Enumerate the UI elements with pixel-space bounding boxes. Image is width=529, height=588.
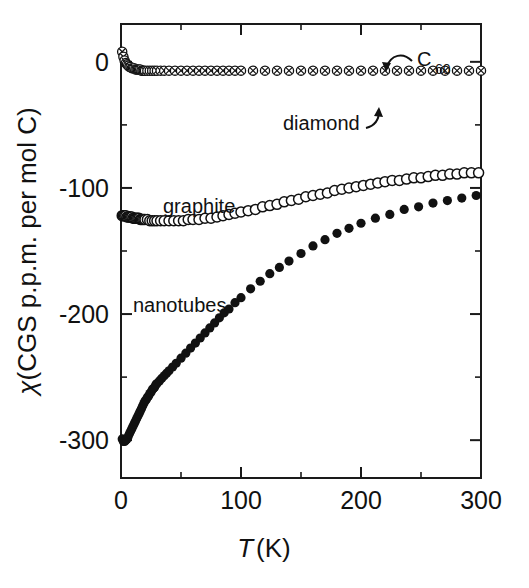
x-tick-label: 300 — [460, 486, 502, 514]
data-point-filled-circle — [344, 224, 353, 233]
data-point-filled-circle — [320, 235, 329, 244]
y-axis-title: χ(CGS p.p.m. per mol C) — [12, 107, 42, 396]
nanotubes-label: nanotubes — [133, 294, 226, 316]
series-nanotubes — [118, 191, 481, 446]
data-point-filled-circle — [443, 196, 452, 205]
data-point-filled-circle — [265, 269, 274, 278]
data-point-filled-circle — [400, 205, 409, 214]
c60-label: C — [417, 48, 431, 70]
data-point-filled-circle — [457, 193, 466, 202]
x-tick-label: 200 — [340, 486, 382, 514]
y-tick-label: -100 — [59, 174, 109, 202]
data-point-filled-circle — [296, 249, 305, 258]
diamond-label: diamond — [283, 112, 360, 134]
x-axis-title: T(K) — [237, 533, 291, 563]
x-tick-label: 100 — [220, 486, 262, 514]
y-axis-tick-labels: 0-100-200-300 — [59, 48, 109, 454]
data-point-filled-circle — [371, 214, 380, 223]
data-point-filled-circle — [414, 202, 423, 211]
data-point-filled-circle — [236, 293, 245, 302]
y-axis-title-symbol: χ — [12, 380, 42, 397]
diamond-annotation: diamond — [283, 107, 383, 134]
diamond-arrowhead-icon — [374, 107, 383, 117]
x-tick-label: 0 — [114, 486, 128, 514]
x-axis-title-units: (K) — [256, 533, 291, 563]
data-point-filled-circle — [275, 263, 284, 272]
data-point-filled-circle — [332, 229, 341, 238]
y-tick-label: -200 — [59, 300, 109, 328]
data-point-filled-circle — [472, 191, 481, 200]
c60-subscript: 60 — [435, 61, 451, 77]
data-point-filled-circle — [428, 198, 437, 207]
data-point-filled-circle — [256, 277, 265, 286]
svg-text:χ(CGS p.p.m. per mol C): χ(CGS p.p.m. per mol C) — [12, 107, 42, 396]
figure-container: 0100200300 0-100-200-300 C 60 diamond gr… — [0, 0, 529, 588]
svg-text:T(K): T(K) — [237, 533, 291, 563]
y-tick-label: -300 — [59, 426, 109, 454]
data-point-open-circle — [474, 168, 484, 178]
chart-svg: 0100200300 0-100-200-300 C 60 diamond gr… — [0, 0, 529, 588]
y-tick-label: 0 — [95, 48, 109, 76]
data-point-filled-circle — [284, 256, 293, 265]
x-axis-title-symbol: T — [237, 533, 255, 563]
graphite-label: graphite — [163, 195, 235, 217]
data-point-filled-circle — [356, 219, 365, 228]
data-point-filled-circle — [308, 241, 317, 250]
data-point-filled-circle — [246, 284, 255, 293]
data-point-filled-circle — [385, 210, 394, 219]
x-axis-tick-labels: 0100200300 — [114, 486, 502, 514]
y-axis-title-units: (CGS p.p.m. per mol C) — [12, 107, 42, 380]
